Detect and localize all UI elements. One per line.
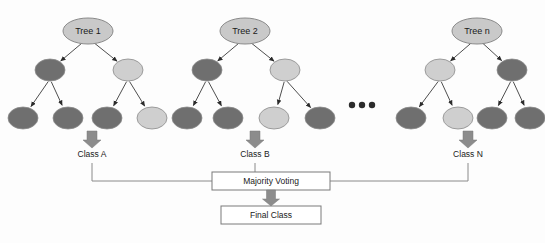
tree-root-1: Tree 1: [63, 18, 113, 44]
tree-leaf-node: [477, 107, 507, 129]
tree-internal-node: [425, 59, 455, 81]
class-outputs-layer: Class AClass BClass N: [78, 131, 483, 159]
class-output-arrow: [83, 131, 101, 148]
tree-root-3: Tree n: [452, 18, 502, 44]
final-class-box: Final Class: [221, 206, 321, 224]
tree-leaf-node: [515, 107, 545, 129]
random-forest-diagram: Tree 1Tree 2Tree n Class AClass BClass N…: [0, 0, 545, 243]
class-output-label: Class B: [240, 149, 270, 159]
connector-class-n: [330, 163, 468, 181]
tree-internal-node: [113, 59, 143, 81]
tree-leaf-node: [443, 107, 473, 129]
ellipsis-dot: [359, 102, 365, 108]
tree-leaf-node: [259, 107, 289, 129]
diagram-canvas: Tree 1Tree 2Tree n Class AClass BClass N…: [0, 0, 545, 243]
tree-internal-node: [35, 59, 65, 81]
tree-leaf-node: [396, 107, 426, 129]
class-output-label: Class N: [453, 149, 483, 159]
tree-internal-node: [497, 59, 527, 81]
tree-nodes-layer: Tree 1Tree 2Tree n: [8, 18, 545, 129]
tree-leaf-node: [172, 107, 202, 129]
ellipsis-dots: [349, 102, 375, 108]
tree-root-label: Tree n: [464, 26, 490, 36]
tree-leaf-node: [213, 107, 243, 129]
voting-boxes-layer: Majority VotingFinal Class: [212, 172, 330, 224]
majority-voting-box-label: Majority Voting: [243, 176, 299, 186]
voting-to-final-arrow: [263, 190, 280, 206]
tree-leaf-node: [137, 107, 167, 129]
class-output-label: Class A: [78, 149, 107, 159]
class-output-arrow: [459, 131, 477, 148]
ellipsis-dot: [349, 102, 355, 108]
class-output-arrow: [246, 131, 264, 148]
tree-leaf-node: [305, 107, 335, 129]
tree-leaf-node: [53, 107, 83, 129]
tree-internal-node: [270, 59, 300, 81]
connector-class-a: [92, 163, 212, 181]
tree-internal-node: [192, 59, 222, 81]
tree-leaf-node: [8, 107, 38, 129]
tree-root-2: Tree 2: [220, 18, 270, 44]
final-class-box-label: Final Class: [250, 210, 292, 220]
majority-voting-box: Majority Voting: [212, 172, 330, 190]
tree-root-label: Tree 1: [75, 26, 101, 36]
tree-root-label: Tree 2: [232, 26, 258, 36]
ellipsis-dot: [369, 102, 375, 108]
tree-leaf-node: [92, 107, 122, 129]
